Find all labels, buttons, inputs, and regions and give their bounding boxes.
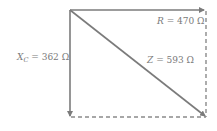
xc-label: XC = 362 Ω: [16, 52, 69, 64]
z-label: Z = 593 Ω: [146, 55, 194, 65]
r-label: R = 470 Ω: [156, 16, 205, 26]
impedance-triangle-diagram: R = 470 Ω XC = 362 Ω Z = 593 Ω: [0, 0, 217, 131]
